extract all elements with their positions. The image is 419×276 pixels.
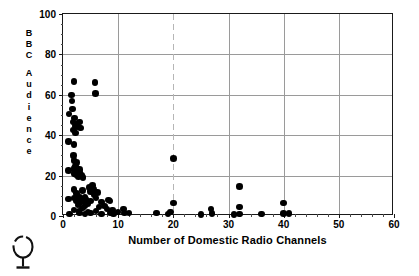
y-tick-70 xyxy=(61,75,64,76)
data-point xyxy=(170,155,177,162)
y-axis-title-letter-0: B xyxy=(22,28,36,39)
y-tick-95 xyxy=(61,24,64,25)
y-axis-title-letter-10: c xyxy=(22,135,36,146)
x-tick-20 xyxy=(173,214,174,218)
data-point xyxy=(73,159,80,166)
x-tick-50 xyxy=(339,214,340,218)
x-tick-38 xyxy=(273,214,274,217)
y-tick-30 xyxy=(61,155,64,156)
y-tick-45 xyxy=(61,125,64,126)
data-point xyxy=(71,141,78,148)
y-axis-title-gap xyxy=(22,61,36,68)
x-tick-14 xyxy=(140,214,141,217)
y-axis-title: BBCAudience xyxy=(22,28,36,157)
y-tick-label-0: 0 xyxy=(50,211,56,222)
y-tick-15 xyxy=(61,186,64,187)
y-tick-55 xyxy=(61,105,64,106)
data-point xyxy=(286,210,293,217)
x-tick-16 xyxy=(151,214,152,217)
data-point xyxy=(236,204,243,211)
gridline-vertical-20 xyxy=(173,14,174,214)
x-tick-2 xyxy=(74,214,75,217)
gridline-horizontal-60 xyxy=(63,95,392,96)
y-tick-50 xyxy=(61,115,64,116)
data-point xyxy=(280,200,287,207)
x-tick-26 xyxy=(206,214,207,217)
gridline-vertical-40 xyxy=(284,14,285,214)
data-point xyxy=(107,198,114,205)
y-axis-title-letter-7: i xyxy=(22,102,36,113)
gridline-vertical-50 xyxy=(339,14,340,214)
y-tick-label-40: 40 xyxy=(45,130,56,141)
y-tick-85 xyxy=(61,44,64,45)
data-point xyxy=(153,210,160,217)
x-tick-54 xyxy=(361,214,362,217)
gridline-vertical-10 xyxy=(118,14,119,214)
gridline-horizontal-20 xyxy=(63,176,392,177)
y-axis-title-letter-9: n xyxy=(22,124,36,135)
data-point xyxy=(71,78,78,85)
data-point xyxy=(209,210,216,217)
x-tick-58 xyxy=(383,214,384,217)
data-point xyxy=(94,189,101,196)
x-tick-28 xyxy=(217,214,218,217)
y-tick-label-20: 20 xyxy=(45,170,56,181)
y-axis-title-letter-1: B xyxy=(22,39,36,50)
x-tick-label-30: 30 xyxy=(223,219,234,230)
data-point xyxy=(92,90,99,97)
x-tick-label-0: 0 xyxy=(60,219,66,230)
x-tick-56 xyxy=(372,214,373,217)
y-tick-label-80: 80 xyxy=(45,49,56,60)
data-point xyxy=(98,211,105,218)
y-tick-5 xyxy=(61,206,64,207)
x-tick-34 xyxy=(251,214,252,217)
data-point xyxy=(236,211,243,218)
y-axis-title-letter-5: u xyxy=(22,79,36,90)
y-tick-90 xyxy=(61,34,64,35)
x-tick-30 xyxy=(229,214,230,218)
scan-artifact-balloon-mark xyxy=(8,234,42,272)
gridline-horizontal-80 xyxy=(63,54,392,55)
gridline-vertical-30 xyxy=(229,14,230,214)
x-tick-label-40: 40 xyxy=(278,219,289,230)
x-tick-44 xyxy=(306,214,307,217)
x-tick-label-20: 20 xyxy=(168,219,179,230)
data-point xyxy=(69,98,76,105)
x-tick-label-60: 60 xyxy=(388,219,399,230)
y-tick-label-60: 60 xyxy=(45,89,56,100)
y-axis-title-letter-4: A xyxy=(22,68,36,79)
data-point xyxy=(236,183,243,190)
x-tick-0 xyxy=(63,214,64,218)
y-axis-title-letter-6: d xyxy=(22,90,36,101)
plot-area: 0204060801000102030405060 xyxy=(62,13,393,215)
y-tick-60 xyxy=(59,95,63,96)
x-tick-42 xyxy=(295,214,296,217)
y-tick-80 xyxy=(59,54,63,55)
x-tick-52 xyxy=(350,214,351,217)
x-tick-label-10: 10 xyxy=(113,219,124,230)
data-point xyxy=(77,125,84,132)
y-tick-40 xyxy=(59,135,63,136)
y-tick-label-100: 100 xyxy=(39,9,56,20)
y-tick-100 xyxy=(59,14,63,15)
y-tick-35 xyxy=(61,145,64,146)
scatter-chart-figure: BBCAudience 0204060801000102030405060 Nu… xyxy=(0,0,419,276)
y-tick-10 xyxy=(61,196,64,197)
data-point xyxy=(198,211,205,218)
y-axis-title-letter-11: e xyxy=(22,146,36,157)
data-point xyxy=(69,106,76,113)
x-tick-60 xyxy=(394,214,395,218)
data-point xyxy=(126,210,133,217)
y-tick-20 xyxy=(59,176,63,177)
gridline-horizontal-40 xyxy=(63,135,392,136)
y-tick-75 xyxy=(61,65,64,66)
data-point xyxy=(80,174,87,181)
x-tick-6 xyxy=(96,214,97,217)
y-axis-title-letter-8: e xyxy=(22,113,36,124)
x-axis-title: Number of Domestic Radio Channels xyxy=(62,234,393,246)
y-axis-title-letter-2: C xyxy=(22,50,36,61)
data-point xyxy=(167,209,174,216)
x-tick-label-50: 50 xyxy=(333,219,344,230)
x-tick-48 xyxy=(328,214,329,217)
x-tick-22 xyxy=(184,214,185,217)
